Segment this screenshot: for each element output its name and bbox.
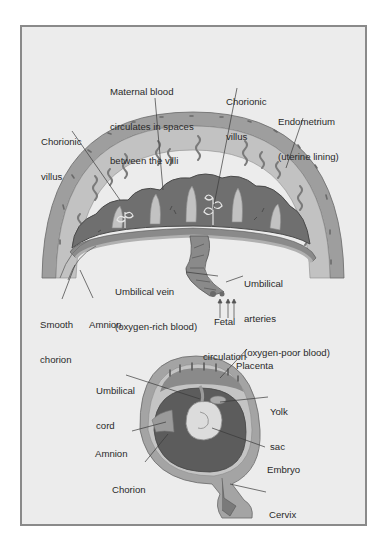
label-chorionic-villus-center: Chorionic villus [226, 73, 267, 154]
label-cervix: Cervix [269, 486, 296, 532]
label-chorionic-villus-left: Chorionic villus [41, 113, 82, 194]
label-smooth-chorion: Smooth chorion [40, 296, 73, 377]
label-placenta: Placenta [236, 337, 273, 383]
label-embryo: Embryo [267, 441, 300, 487]
label-amnion-top: Amnion [89, 296, 122, 342]
label-maternal-blood: Maternal blood circulates in spaces betw… [110, 63, 194, 178]
label-umbilical-vein: Umbilical vein (oxygen-rich blood) [115, 263, 197, 344]
label-endometrium: Endometrium (uterine lining) [278, 93, 339, 174]
label-chorion: Chorion [112, 461, 146, 507]
